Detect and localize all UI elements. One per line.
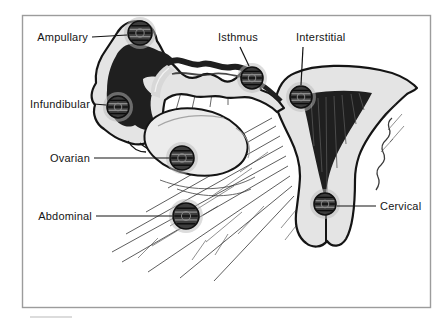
ectopic-sites-figure: AmpullaryInfundibularOvarianAbdominalIst… [0,0,448,322]
cervical-mass [310,189,340,219]
infundibular-label: Infundibular [30,98,90,110]
cervical-label: Cervical [380,200,421,212]
abdominal-label: Abdominal [38,210,92,222]
ampullary-mass [124,17,156,49]
ovarian-mass [166,142,198,174]
ampullary-label: Ampullary [37,31,88,43]
ovarian-label: Ovarian [50,152,90,164]
infundibular-mass [103,92,133,122]
figure-page: AmpullaryInfundibularOvarianAbdominalIst… [0,0,448,322]
interstitial-label: Interstitial [296,31,345,43]
isthmus-label: Isthmus [218,31,258,43]
abdominal-mass [169,199,203,233]
isthmus-mass [237,63,267,93]
interstitial-mass [286,82,316,112]
